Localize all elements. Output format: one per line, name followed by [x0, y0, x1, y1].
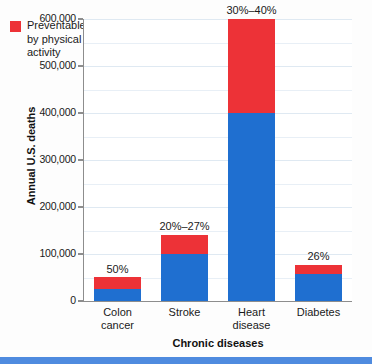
x-axis-category-line: Colon [101, 306, 134, 319]
y-axis-tick-label-wrap: 600,000 [4, 12, 76, 24]
y-axis-tick [78, 112, 83, 113]
bar-segment-preventable [94, 277, 141, 289]
bar-segment-preventable [228, 19, 275, 113]
y-axis-tick [78, 65, 83, 66]
y-axis-tick-label: 300,000 [8, 153, 76, 165]
y-axis-tick-label: 0 [8, 294, 76, 306]
y-axis-tick [78, 18, 83, 19]
y-axis-tick-label-wrap: 200,000 [4, 200, 76, 212]
bar-value-annotation: 50% [106, 263, 128, 275]
y-axis-tick-label: 500,000 [8, 59, 76, 71]
x-axis-category-line: cancer [101, 319, 134, 332]
x-axis-category-line: Stroke [169, 306, 201, 319]
x-axis-category-line: disease [233, 319, 271, 332]
x-axis-line [83, 301, 352, 302]
plot-area: 50%20%–27%30%–40%26% [84, 19, 352, 301]
x-axis-category-line: Heart [233, 306, 271, 319]
chart-container: Preventable by physical activity Annual … [0, 0, 372, 364]
legend-label-preventable: Preventable by physical activity [27, 19, 86, 60]
y-axis-line [83, 19, 84, 302]
bar-group: 30%–40% [228, 19, 275, 301]
y-axis-tick-label-wrap: 0 [4, 294, 76, 306]
x-axis-category-label: Coloncancer [101, 306, 134, 331]
y-axis-tick [78, 159, 83, 160]
bar-group: 20%–27% [161, 19, 208, 301]
y-axis-tick-label: 200,000 [8, 200, 76, 212]
x-axis-category-label: Diabetes [297, 306, 340, 319]
y-axis-tick-label: 100,000 [8, 247, 76, 259]
y-axis-tick [78, 300, 83, 301]
x-axis-category-label: Stroke [169, 306, 201, 319]
bar-value-annotation: 26% [307, 250, 329, 262]
bar-segment-preventable [295, 265, 342, 274]
y-axis-tick-label-wrap: 500,000 [4, 59, 76, 71]
y-axis-tick-label-wrap: 100,000 [4, 247, 76, 259]
bar-segment-nonpreventable [161, 254, 208, 301]
x-axis-category-line: Diabetes [297, 306, 340, 319]
y-axis-tick-label: 400,000 [8, 106, 76, 118]
y-axis-tick-label: 600,000 [8, 12, 76, 24]
bar-value-annotation: 20%–27% [159, 220, 209, 232]
bar-segment-nonpreventable [94, 289, 141, 301]
bottom-decorative-band [0, 357, 372, 364]
y-axis-tick-label-wrap: 400,000 [4, 106, 76, 118]
chart-legend: Preventable by physical activity [10, 19, 86, 60]
bar-segment-preventable [161, 235, 208, 254]
bar-segment-nonpreventable [228, 113, 275, 301]
x-axis-title: Chronic diseases [84, 337, 352, 349]
y-axis-tick-label-wrap: 300,000 [4, 153, 76, 165]
bar-segment-nonpreventable [295, 274, 342, 301]
bar-value-annotation: 30%–40% [226, 4, 276, 16]
bar-group: 26% [295, 19, 342, 301]
y-axis-tick [78, 206, 83, 207]
y-axis-tick [78, 253, 83, 254]
bar-group: 50% [94, 19, 141, 301]
x-axis-category-label: Heartdisease [233, 306, 271, 331]
